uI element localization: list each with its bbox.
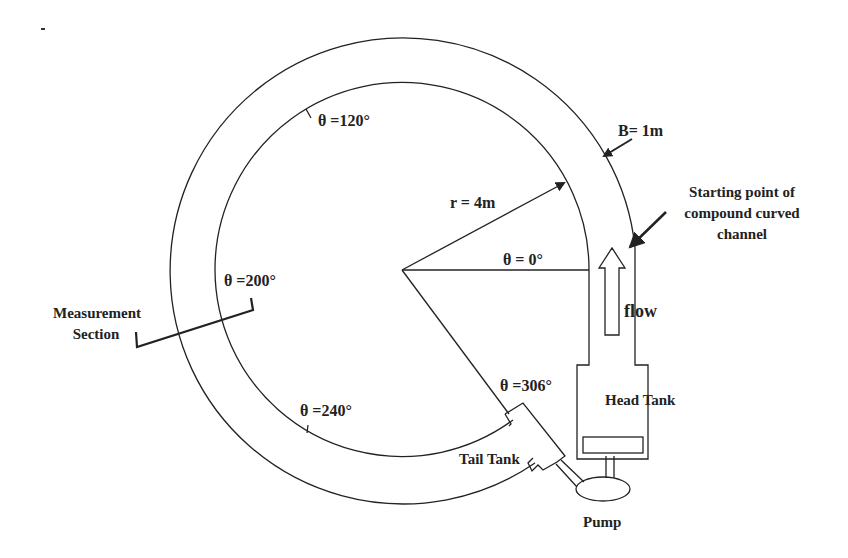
pump-body xyxy=(576,477,630,501)
label-theta-306: θ =306° xyxy=(500,377,552,394)
measurement-section-bracket xyxy=(136,298,253,347)
label-start-2: compound curved xyxy=(684,205,800,221)
label-tail-tank: Tail Tank xyxy=(459,451,520,467)
label-theta-120: θ =120° xyxy=(318,112,370,129)
label-measurement-1: Measurement xyxy=(53,305,141,321)
label-head-tank: Head Tank xyxy=(605,392,676,408)
channel-diagram: θ =120° θ =200° θ =240° θ =306° θ = 0° r… xyxy=(0,0,848,558)
width-arrow xyxy=(604,139,632,156)
scan-dot xyxy=(41,28,45,30)
label-measurement-2: Section xyxy=(73,326,120,342)
label-pump: Pump xyxy=(583,514,621,530)
head-tank-inlet xyxy=(583,437,643,453)
label-theta-200: θ =200° xyxy=(224,272,276,289)
theta-120-tick xyxy=(306,109,311,118)
label-start-3: channel xyxy=(717,226,767,242)
label-width: B= 1m xyxy=(618,122,664,139)
label-theta-0: θ = 0° xyxy=(503,251,543,268)
label-theta-240: θ =240° xyxy=(300,402,352,419)
label-flow: flow xyxy=(624,301,657,321)
label-radius: r = 4m xyxy=(450,194,496,211)
theta-306-line xyxy=(402,270,509,414)
start-arrow xyxy=(630,212,666,247)
flow-arrow xyxy=(599,248,625,335)
label-start-1: Starting point of xyxy=(689,184,796,200)
